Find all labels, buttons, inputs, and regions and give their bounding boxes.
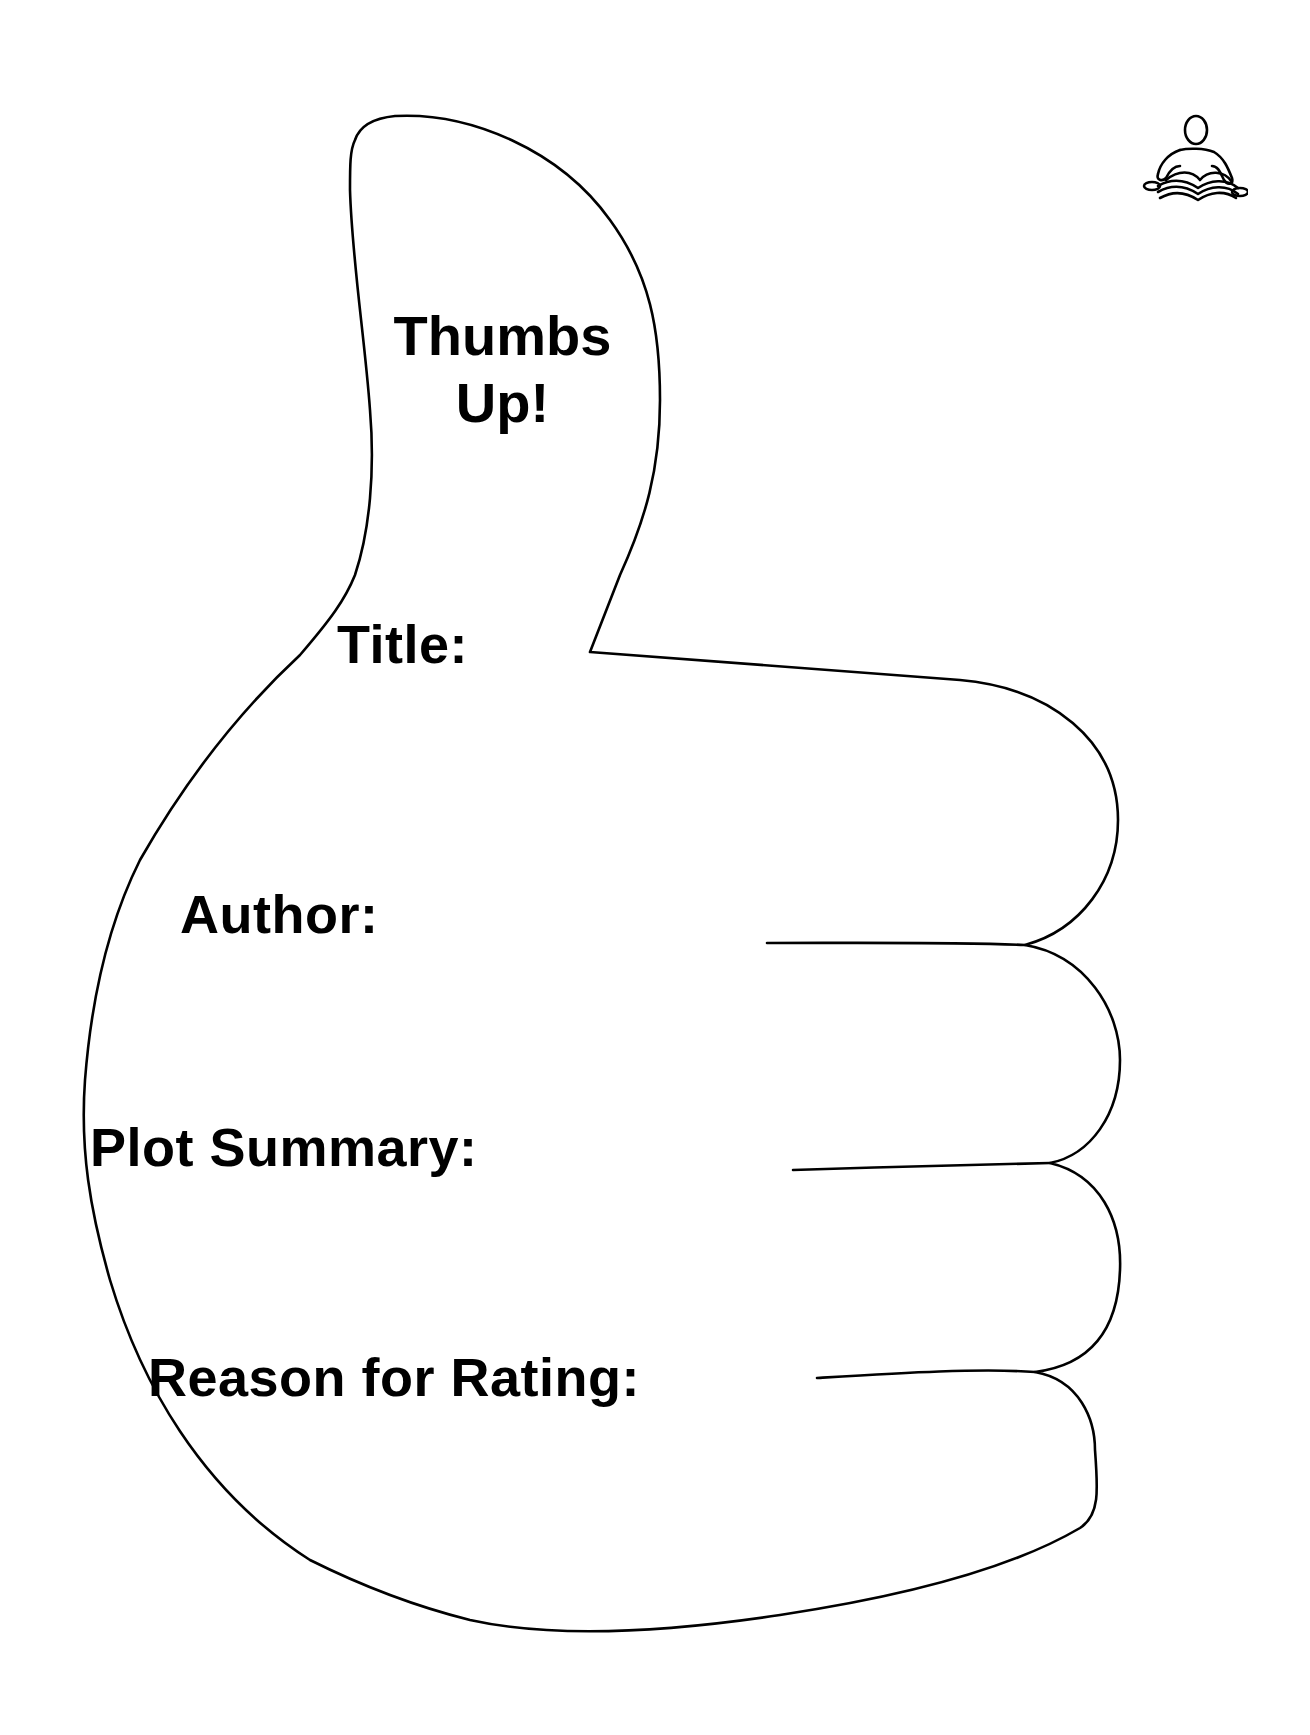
person-reading-book-icon xyxy=(1128,108,1248,208)
heading-line-thumbs: Thumbs xyxy=(360,302,645,369)
field-label-reason-for-rating: Reason for Rating: xyxy=(148,1350,640,1404)
thumbs-up-worksheet: Thumbs Up! Title: Author: Plot Summary: … xyxy=(0,0,1310,1735)
thumbs-up-hand-outline-icon xyxy=(0,0,1310,1735)
field-label-plot-summary: Plot Summary: xyxy=(90,1120,478,1174)
heading-line-up: Up! xyxy=(360,369,645,436)
field-label-author: Author: xyxy=(180,887,378,941)
field-label-title: Title: xyxy=(337,617,468,671)
worksheet-heading: Thumbs Up! xyxy=(360,302,645,436)
